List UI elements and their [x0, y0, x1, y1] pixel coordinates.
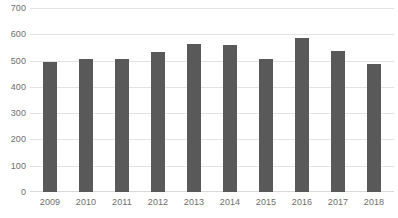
- x-axis-tick-label: 2011: [112, 197, 132, 207]
- bar-2013[interactable]: [187, 44, 201, 192]
- bar-2018[interactable]: [367, 64, 381, 192]
- y-axis-tick-label: 700: [11, 3, 26, 13]
- bar-2011[interactable]: [115, 59, 129, 193]
- x-axis-tick-label: 2017: [328, 197, 348, 207]
- bar-chart: 700 600 500 400 300 200 100 0: [0, 0, 398, 218]
- bar-2017[interactable]: [331, 51, 345, 192]
- plot-area: [30, 8, 394, 192]
- bar-2010[interactable]: [79, 59, 93, 192]
- y-axis-tick-label: 300: [11, 108, 26, 118]
- x-axis-tick-label: 2013: [184, 197, 204, 207]
- y-axis-tick-label: 400: [11, 82, 26, 92]
- x-axis-tick-label: 2010: [76, 197, 96, 207]
- bar-2015[interactable]: [259, 59, 273, 192]
- y-axis-tick-label: 500: [11, 56, 26, 66]
- x-axis-tick-label: 2014: [220, 197, 240, 207]
- y-axis-tick-label: 200: [11, 134, 26, 144]
- x-axis-tick-label: 2015: [256, 197, 276, 207]
- bar-series: [30, 8, 394, 192]
- y-axis-tick-label: 600: [11, 29, 26, 39]
- bar-2009[interactable]: [43, 62, 57, 192]
- x-axis-tick-label: 2012: [148, 197, 168, 207]
- x-axis-tick-label: 2016: [292, 197, 312, 207]
- y-axis-tick-label: 0: [21, 187, 26, 197]
- x-axis-tick-label: 2018: [364, 197, 384, 207]
- y-axis: 700 600 500 400 300 200 100 0: [0, 0, 30, 218]
- bar-2012[interactable]: [151, 52, 165, 192]
- y-axis-tick-label: 100: [11, 161, 26, 171]
- x-axis-tick-label: 2009: [40, 197, 60, 207]
- bar-2016[interactable]: [295, 38, 309, 192]
- bar-2014[interactable]: [223, 45, 237, 192]
- x-axis: 2009 2010 2011 2012 2013 2014 2015 2016 …: [30, 194, 394, 218]
